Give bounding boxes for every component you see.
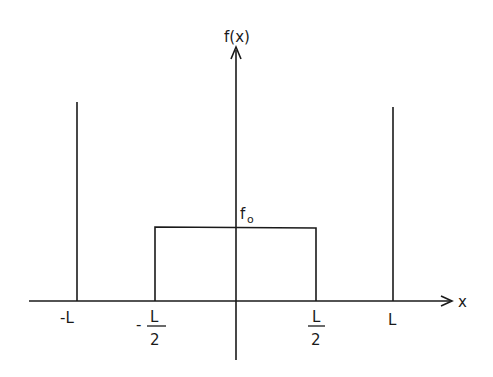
tick-label-pos-half-num: L <box>312 308 321 326</box>
tick-label-neg-half-minus: - <box>136 316 141 334</box>
tick-label-pos-L: L <box>388 311 397 329</box>
tick-label-pos-half-den: 2 <box>311 331 321 349</box>
x-axis-label: x <box>458 293 467 311</box>
height-label-sub: o <box>247 213 254 226</box>
tick-label-neg-half-den: 2 <box>150 331 160 349</box>
tick-label-neg-half-num: L <box>150 308 159 326</box>
diagram-canvas: f(x) x f o -L - L 2 L 2 L <box>0 0 493 377</box>
y-axis-label: f(x) <box>224 28 250 46</box>
tick-label-neg-L: -L <box>60 309 74 327</box>
height-label-f: f <box>240 205 246 223</box>
